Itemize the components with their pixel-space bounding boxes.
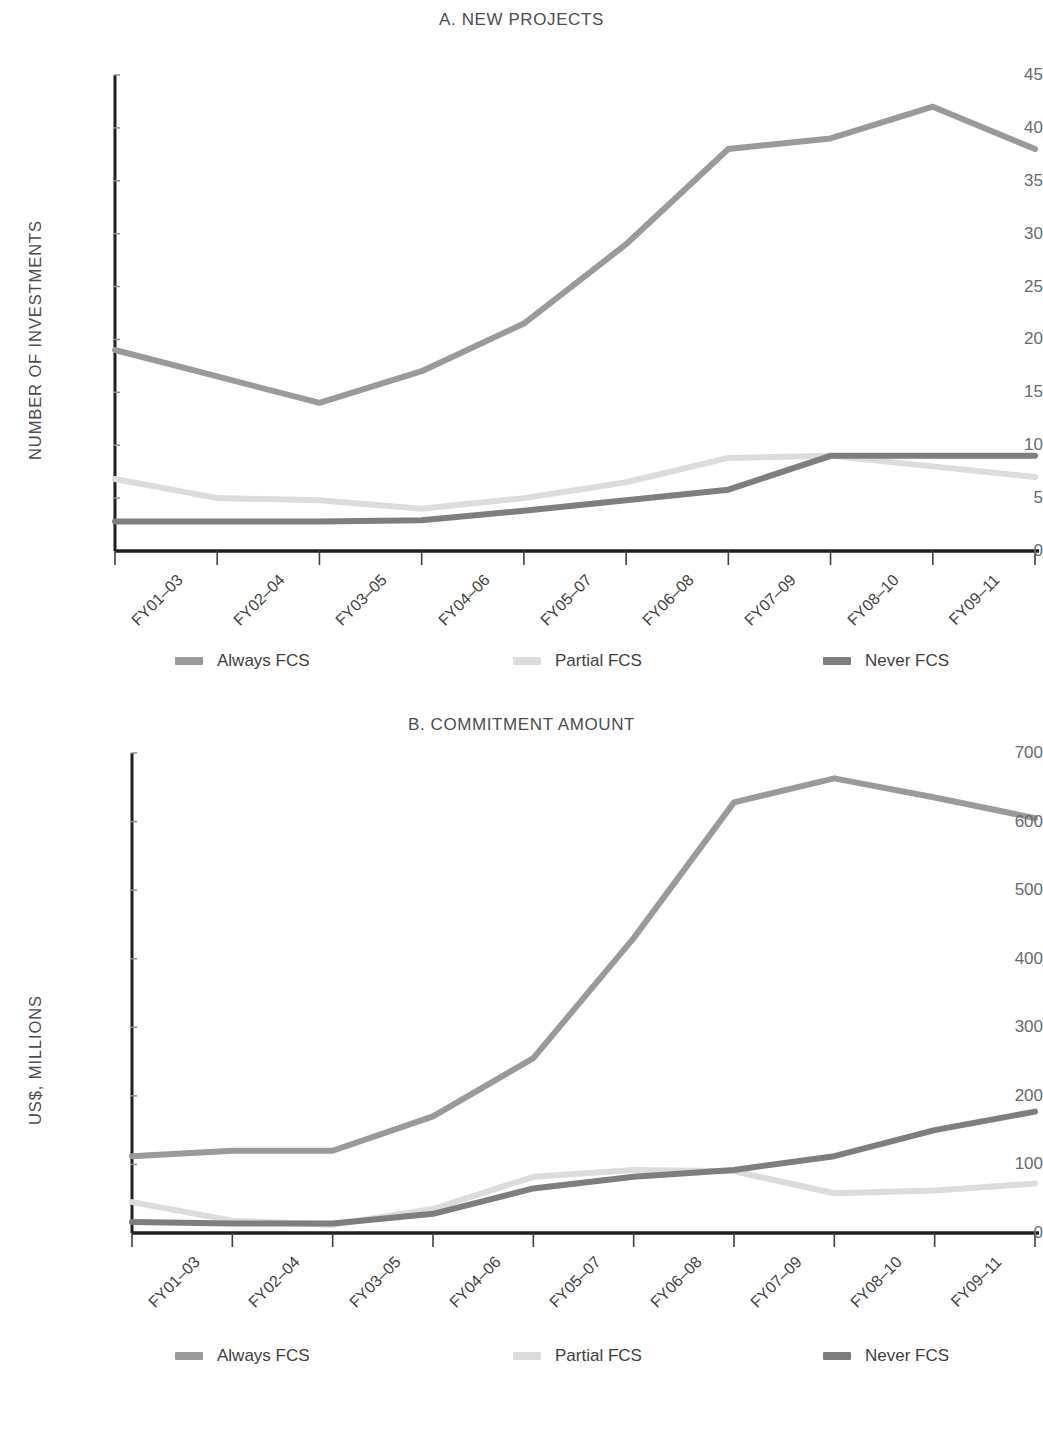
- panel-b-title: B. COMMITMENT AMOUNT: [0, 705, 1043, 735]
- y-tick-label: 35: [946, 171, 1043, 191]
- panel-a-chart-svg: [0, 30, 1043, 590]
- y-tick-label: 10: [946, 435, 1043, 455]
- legend-item-always[interactable]: Always FCS: [175, 1346, 310, 1366]
- y-tick-label: 15: [946, 382, 1043, 402]
- y-tick-label: 20: [946, 329, 1043, 349]
- y-tick-label: 25: [946, 277, 1043, 297]
- legend-swatch-partial-icon: [513, 657, 541, 665]
- panel-a-title: A. NEW PROJECTS: [0, 0, 1043, 30]
- legend-swatch-never-icon: [823, 657, 851, 665]
- y-tick-label: 700: [929, 743, 1043, 763]
- y-tick-label: 300: [929, 1017, 1043, 1037]
- y-tick-label: 40: [946, 118, 1043, 138]
- panel-a-plot-area: NUMBER OF INVESTMENTS 051015202530354045…: [0, 30, 1043, 645]
- panel-a-legend: Always FCSPartial FCSNever FCS: [0, 645, 1043, 685]
- panel-new-projects: A. NEW PROJECTS NUMBER OF INVESTMENTS 05…: [0, 0, 1043, 705]
- panel-b-y-axis-label: US$, MILLIONS: [26, 995, 45, 1125]
- panel-b-legend: Always FCSPartial FCSNever FCS: [0, 1340, 1043, 1380]
- legend-label: Partial FCS: [555, 651, 642, 671]
- y-tick-label: 30: [946, 224, 1043, 244]
- panel-b-plot-area: US$, MILLIONS 0100200300400500600700 FY0…: [0, 735, 1043, 1340]
- y-tick-label: 400: [929, 949, 1043, 969]
- legend-swatch-partial-icon: [513, 1352, 541, 1360]
- panel-b-chart-svg: [0, 735, 1043, 1280]
- panel-commitment-amount: B. COMMITMENT AMOUNT US$, MILLIONS 01002…: [0, 705, 1043, 1405]
- legend-label: Partial FCS: [555, 1346, 642, 1366]
- legend-item-always[interactable]: Always FCS: [175, 651, 310, 671]
- legend-swatch-always-icon: [175, 1352, 203, 1360]
- y-tick-label: 0: [946, 541, 1043, 561]
- y-tick-label: 45: [946, 65, 1043, 85]
- legend-swatch-never-icon: [823, 1352, 851, 1360]
- y-tick-label: 600: [929, 812, 1043, 832]
- legend-item-never[interactable]: Never FCS: [823, 651, 949, 671]
- y-tick-label: 0: [929, 1223, 1043, 1243]
- y-tick-label: 500: [929, 880, 1043, 900]
- legend-label: Always FCS: [217, 651, 310, 671]
- y-tick-label: 100: [929, 1154, 1043, 1174]
- y-tick-label: 5: [946, 488, 1043, 508]
- legend-item-never[interactable]: Never FCS: [823, 1346, 949, 1366]
- legend-label: Always FCS: [217, 1346, 310, 1366]
- legend-item-partial[interactable]: Partial FCS: [513, 651, 642, 671]
- legend-label: Never FCS: [865, 651, 949, 671]
- legend-label: Never FCS: [865, 1346, 949, 1366]
- panel-a-y-axis-label: NUMBER OF INVESTMENTS: [26, 220, 45, 460]
- y-tick-label: 200: [929, 1086, 1043, 1106]
- legend-swatch-always-icon: [175, 657, 203, 665]
- legend-item-partial[interactable]: Partial FCS: [513, 1346, 642, 1366]
